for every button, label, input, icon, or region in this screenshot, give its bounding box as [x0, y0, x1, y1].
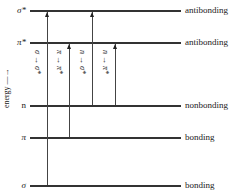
- level-type-sigma-star: antibonding: [185, 5, 228, 15]
- transition-line-n-sigma-star: [92, 12, 93, 105]
- arrow-up-icon: [45, 12, 49, 17]
- transition-line-pi-pi-star: [69, 44, 70, 137]
- transition-line-n-pi-star: [115, 44, 116, 105]
- transition-label-pi-pi-star: π → π*: [55, 50, 64, 74]
- level-line-pi-star: [30, 42, 181, 44]
- transition-label-sigma-sigma-star: σ → σ*: [33, 50, 42, 74]
- level-line-n: [30, 105, 181, 107]
- transition-line-sigma-sigma-star: [47, 12, 48, 185]
- arrow-up-icon: [67, 44, 71, 49]
- arrow-up-icon: [113, 44, 117, 49]
- level-line-sigma-star: [30, 10, 181, 12]
- level-type-sigma: bonding: [185, 180, 215, 190]
- level-symbol-n: n: [2, 100, 26, 110]
- level-line-sigma: [30, 185, 181, 187]
- level-type-n: nonbonding: [185, 100, 228, 110]
- level-symbol-pi: π: [2, 132, 26, 142]
- level-symbol-sigma: σ: [2, 180, 26, 190]
- arrow-up-icon: [90, 12, 94, 17]
- level-line-pi: [30, 137, 181, 139]
- level-symbol-sigma-star: σ*: [2, 5, 26, 15]
- transition-label-n-sigma-star: n → σ*: [78, 50, 87, 74]
- transition-label-n-pi-star: n → π*: [101, 50, 110, 74]
- level-type-pi: bonding: [185, 132, 215, 142]
- level-symbol-pi-star: π*: [2, 37, 26, 47]
- level-type-pi-star: antibonding: [185, 37, 228, 47]
